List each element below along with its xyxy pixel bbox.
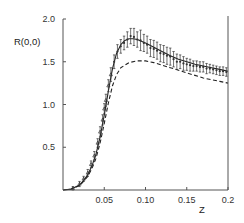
dot-marker-icon	[166, 55, 168, 57]
dot-marker-icon	[120, 45, 122, 47]
dot-marker-icon	[196, 65, 198, 67]
dot-marker-icon	[219, 70, 221, 72]
x-tick-label: 0.2	[222, 195, 235, 205]
x-tick-label: 0.10	[137, 195, 155, 205]
dot-marker-icon	[116, 50, 118, 52]
chart: 0.050.100.150.20.51.01.52.0 R(0,0) Z	[0, 0, 244, 223]
dot-marker-icon	[130, 35, 132, 37]
dot-marker-icon	[126, 38, 128, 40]
x-axis-label: Z	[199, 204, 205, 215]
dot-marker-icon	[163, 53, 165, 55]
dot-marker-icon	[159, 52, 161, 54]
dot-marker-icon	[179, 61, 181, 63]
y-tick-label: 1.0	[42, 100, 55, 110]
dot-marker-icon	[192, 65, 194, 67]
dot-marker-icon	[172, 58, 174, 60]
y-axis-label: R(0,0)	[14, 36, 40, 47]
y-tick-label: 2.0	[42, 14, 55, 24]
x-tick-label: 0.15	[178, 195, 196, 205]
dot-marker-icon	[156, 50, 158, 52]
dot-marker-icon	[212, 68, 214, 70]
dot-marker-icon	[199, 66, 201, 68]
dot-marker-icon	[215, 69, 217, 71]
plot-area	[63, 28, 228, 190]
dot-marker-icon	[139, 39, 141, 41]
dot-marker-icon	[153, 48, 155, 50]
dot-marker-icon	[113, 61, 115, 63]
dot-marker-icon	[222, 70, 224, 72]
ticks: 0.050.100.150.20.51.01.52.0	[42, 14, 234, 205]
dot-marker-icon	[136, 38, 138, 40]
dot-marker-icon	[189, 64, 191, 66]
dot-marker-icon	[169, 56, 171, 58]
dot-marker-icon	[205, 67, 207, 69]
dot-marker-icon	[209, 67, 211, 69]
x-tick-label: 0.05	[95, 195, 113, 205]
axes	[63, 16, 228, 190]
dot-marker-icon	[225, 71, 227, 73]
y-tick-label: 1.5	[42, 57, 55, 67]
dot-marker-icon	[186, 63, 188, 65]
dot-marker-icon	[182, 62, 184, 64]
dot-marker-icon	[176, 61, 178, 63]
dot-marker-icon	[202, 66, 204, 68]
dot-marker-icon	[133, 36, 135, 38]
y-tick-label: 0.5	[42, 142, 55, 152]
dot-marker-icon	[149, 47, 151, 49]
dot-marker-icon	[123, 42, 125, 44]
data-points	[71, 28, 227, 190]
dot-marker-icon	[146, 44, 148, 46]
dot-marker-icon	[143, 42, 145, 44]
